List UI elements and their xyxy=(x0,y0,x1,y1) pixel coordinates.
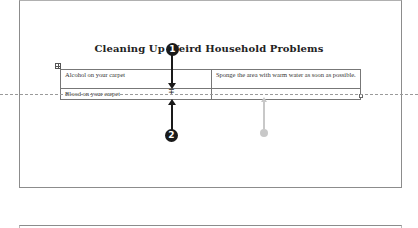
table-row: Alcohol on your carpet Sponge the area w… xyxy=(61,70,361,89)
row-border-drag-guide xyxy=(0,94,418,95)
document-table: Alcohol on your carpet Sponge the area w… xyxy=(60,69,361,100)
callout-arrow-2 xyxy=(171,104,173,130)
row-resize-cursor-icon: ∓ xyxy=(168,88,175,96)
callout-arrow-1 xyxy=(171,55,173,85)
document-title: Cleaning Up Weird Household Problems xyxy=(0,43,418,54)
ghost-arrow-line xyxy=(263,101,265,129)
ghost-callout-dot xyxy=(260,129,268,137)
callout-badge-2: 2 xyxy=(165,129,178,142)
next-page xyxy=(19,225,402,228)
table-cell[interactable]: Alcohol on your carpet xyxy=(61,70,212,89)
table-cell[interactable]: Sponge the area with warm water as soon … xyxy=(212,70,361,89)
